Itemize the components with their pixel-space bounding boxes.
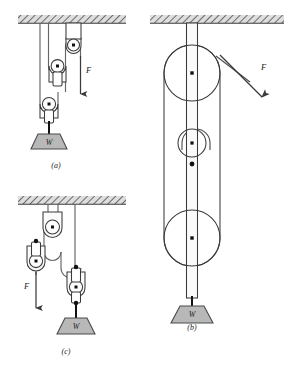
ceiling-a — [18, 15, 126, 23]
force-label-a: F — [85, 65, 92, 75]
force-arrow-c: F — [23, 272, 36, 308]
force-label-c: F — [23, 281, 30, 291]
pulley-a-middle — [49, 60, 66, 86]
caption-a: (a) — [51, 161, 61, 170]
pulley-c-right — [67, 265, 85, 305]
weight-a: W — [31, 121, 67, 149]
caption-c: (c) — [62, 347, 71, 356]
force-arrow-a: F — [81, 56, 93, 94]
ropes-b — [164, 45, 250, 266]
panel-c: W F (c) — [18, 196, 126, 356]
force-arrow-b: F — [220, 55, 267, 97]
ceiling-b — [150, 15, 284, 23]
pulley-a-lower — [40, 97, 58, 123]
pulley-c-top — [43, 212, 62, 238]
pulley-a-fixed-top — [66, 23, 81, 54]
panel-b: W F (b) — [150, 15, 284, 332]
pulley-systems-figure: W F (a) — [0, 0, 292, 369]
panel-a: W F (a) — [18, 15, 126, 170]
ceiling-c — [18, 196, 126, 204]
caption-b: (b) — [187, 323, 197, 332]
pulley-c-left — [27, 239, 45, 271]
weight-c: W — [57, 303, 95, 334]
force-label-b: F — [260, 62, 267, 72]
support-strap-b — [187, 23, 198, 298]
weight-b: W — [171, 296, 213, 323]
